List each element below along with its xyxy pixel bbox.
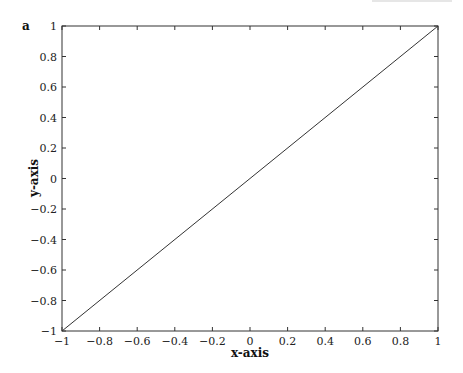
x-tick-label: −0.6 [124, 335, 151, 348]
data-line [62, 26, 438, 331]
x-tick-label: 0.6 [354, 335, 372, 348]
y-tick-label: 0.8 [40, 51, 58, 64]
x-axis-label: x-axis [231, 346, 269, 360]
y-tick-label: −0.6 [30, 264, 57, 277]
x-tick-label: −0.8 [86, 335, 113, 348]
y-axis-label: y-axis [27, 159, 41, 198]
panel-label: a [22, 19, 30, 33]
x-tick-label: 0.8 [392, 335, 410, 348]
x-tick-label: 0.2 [279, 335, 297, 348]
y-tick-label: 0.6 [40, 81, 58, 94]
y-tick-label: 0.4 [40, 112, 58, 125]
y-tick-label: −0.2 [30, 203, 57, 216]
y-tick-label: 0 [50, 173, 57, 186]
y-tick-label: −0.8 [30, 295, 57, 308]
x-tick-label: −0.2 [199, 335, 226, 348]
chart: a −1−0.8−0.6−0.4−0.200.20.40.60.81−1−0.8… [0, 0, 463, 373]
x-tick-label: 1 [435, 335, 442, 348]
y-tick-label: −0.4 [30, 234, 57, 247]
tick-labels: −1−0.8−0.6−0.4−0.200.20.40.60.81−1−0.8−0… [30, 20, 441, 348]
y-tick-label: 0.2 [40, 142, 58, 155]
x-tick-label: 0.4 [316, 335, 334, 348]
y-tick-label: 1 [50, 20, 57, 33]
x-tick-label: −0.4 [161, 335, 188, 348]
y-tick-label: −1 [41, 325, 57, 338]
